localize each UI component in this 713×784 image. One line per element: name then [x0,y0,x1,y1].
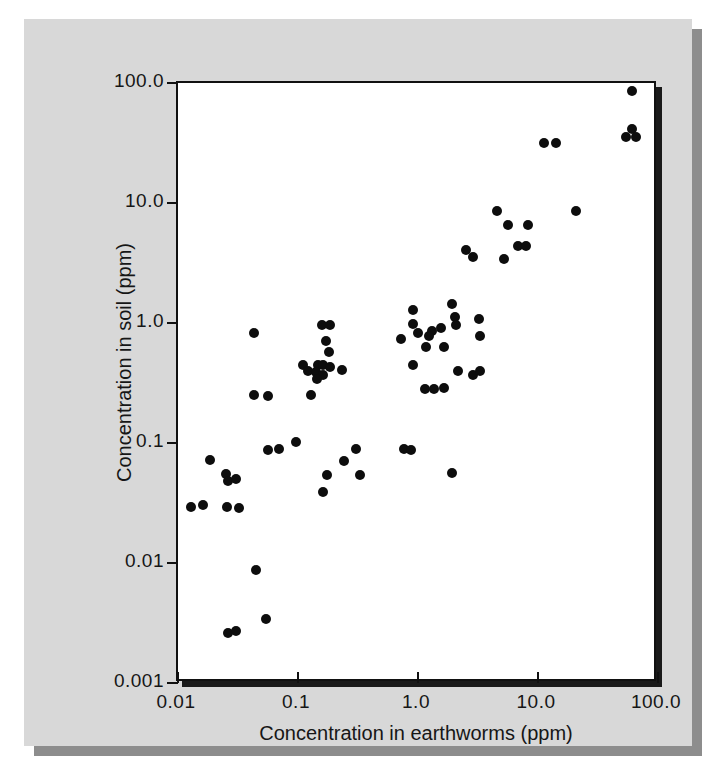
scatter-point [198,500,208,510]
scatter-point [249,328,259,338]
y-tick-mark [167,82,178,84]
scatter-point [324,347,334,357]
scatter-point [447,468,457,478]
scatter-point [263,445,273,455]
scatter-point [261,614,271,624]
x-axis-tick-labels: 0.010.11.010.0100.0 [176,691,656,721]
scatter-point [234,503,244,513]
scatter-point [291,437,301,447]
scatter-point [325,320,335,330]
scatter-point [325,362,335,372]
scatter-point [355,470,365,480]
scatter-point [447,299,457,309]
scatter-point [263,391,273,401]
scatter-point [453,366,463,376]
scatter-point [205,455,215,465]
scatter-point [408,360,418,370]
scatter-point [492,206,502,216]
scatter-point [321,336,331,346]
scatter-point [475,366,485,376]
y-tick-label: 0.1 [136,430,164,452]
x-tick-mark [657,672,659,683]
scatter-point [231,474,241,484]
scatter-point [571,206,581,216]
scatter-point [521,241,531,251]
scatter-point [408,305,418,315]
scatter-point [421,342,431,352]
x-tick-label: 0.01 [157,691,196,713]
scatter-point [424,331,434,341]
figure-card: Concentration in soil (ppm) 0.0010.010.1… [24,19,692,746]
scatter-point [439,383,449,393]
x-axis-title: Concentration in earthworms (ppm) [176,722,656,745]
y-tick-mark [167,562,178,564]
scatter-point [306,390,316,400]
figure-container: Concentration in soil (ppm) 0.0010.010.1… [0,0,713,784]
scatter-point [406,445,416,455]
scatter-point [631,132,641,142]
scatter-point [413,328,423,338]
x-tick-label: 10.0 [517,691,556,713]
scatter-point [429,384,439,394]
y-tick-mark [167,442,178,444]
scatter-point [539,138,549,148]
scatter-point [503,220,513,230]
y-tick-mark [167,322,178,324]
scatter-point [499,254,509,264]
scatter-point [231,626,241,636]
scatter-point [621,132,631,142]
scatter-point [436,323,446,333]
scatter-point [339,456,349,466]
x-tick-label: 1.0 [402,691,430,713]
scatter-point [249,390,259,400]
scatter-point [439,342,449,352]
scatter-points-layer [178,83,654,679]
scatter-point [551,138,561,148]
scatter-point [312,374,322,384]
y-axis-tick-labels: 0.0010.010.11.010.0100.0 [64,81,164,681]
scatter-point [396,334,406,344]
scatter-point [475,331,485,341]
scatter-point [451,320,461,330]
scatter-point [274,444,284,454]
y-tick-label: 10.0 [125,190,164,212]
y-tick-label: 100.0 [114,70,164,92]
y-tick-label: 0.01 [125,550,164,572]
x-tick-label: 100.0 [631,691,681,713]
scatter-point [474,314,484,324]
y-tick-mark [167,202,178,204]
scatter-point [523,220,533,230]
scatter-point [627,86,637,96]
y-tick-label: 1.0 [136,310,164,332]
x-tick-label: 0.1 [282,691,310,713]
scatter-point [251,565,261,575]
scatter-point [351,444,361,454]
plot-area [176,81,656,681]
scatter-point [468,252,478,262]
y-tick-label: 0.001 [114,670,164,692]
scatter-point [337,365,347,375]
scatter-point [322,470,332,480]
scatter-point [318,487,328,497]
scatter-point [222,502,232,512]
scatter-point [186,502,196,512]
